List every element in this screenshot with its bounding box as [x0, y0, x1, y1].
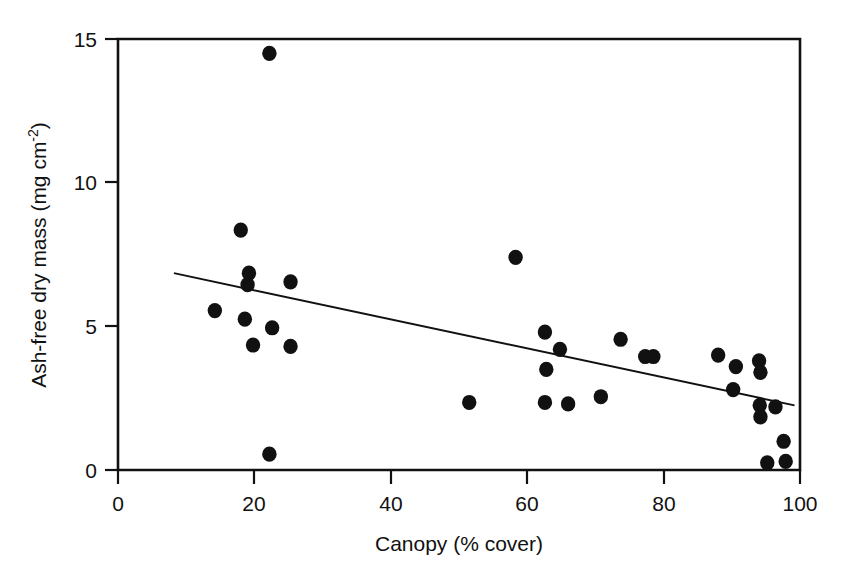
data-point: [646, 349, 660, 364]
data-point: [538, 324, 552, 339]
data-point: [776, 434, 790, 449]
data-point: [262, 447, 276, 462]
data-point: [594, 389, 608, 404]
data-point: [768, 399, 782, 414]
y-tick-label-5: 5: [85, 315, 97, 338]
y-axis-label-tail: ): [27, 122, 50, 129]
y-axis-ticks: [105, 39, 118, 470]
y-axis-label: Ash-free dry mass (mg cm-2): [25, 122, 50, 388]
svg-text:Ash-free dry mass (mg cm-2): Ash-free dry mass (mg cm-2): [25, 122, 50, 388]
scatter-plot-figure: 15 10 5 0 0 20 40 60 80 100 Canopy (% co…: [0, 0, 846, 574]
data-point: [729, 359, 743, 374]
y-axis-label-main: Ash-free dry mass (mg cm: [27, 142, 50, 388]
x-axis-label: Canopy (% cover): [375, 532, 543, 555]
y-axis-label-superscript: -2: [25, 129, 41, 142]
data-point: [538, 395, 552, 410]
data-point: [539, 362, 553, 377]
x-tick-label-20: 20: [242, 492, 265, 515]
x-tick-label-80: 80: [652, 492, 675, 515]
data-point: [561, 396, 575, 411]
data-point: [711, 347, 725, 362]
x-tick-label-0: 0: [112, 492, 124, 515]
data-point: [613, 332, 627, 347]
data-point: [753, 409, 767, 424]
data-point: [283, 339, 297, 354]
data-point: [778, 454, 792, 469]
x-tick-label-40: 40: [379, 492, 402, 515]
data-point: [246, 337, 260, 352]
x-axis-ticks: [118, 470, 800, 484]
data-point: [238, 312, 252, 327]
data-point: [726, 382, 740, 397]
data-point: [262, 46, 276, 61]
data-point: [234, 222, 248, 237]
data-point: [240, 277, 254, 292]
data-point: [208, 303, 222, 318]
data-point: [553, 342, 567, 357]
x-axis-tick-labels: 0 20 40 60 80 100: [112, 492, 817, 515]
data-point: [462, 395, 476, 410]
data-point: [753, 365, 767, 380]
y-axis-tick-labels: 15 10 5 0: [74, 28, 97, 482]
regression-line: [174, 273, 795, 405]
x-tick-label-60: 60: [515, 492, 538, 515]
y-tick-label-15: 15: [74, 28, 97, 51]
y-tick-label-0: 0: [85, 459, 97, 482]
data-point: [265, 320, 279, 335]
y-tick-label-10: 10: [74, 171, 97, 194]
data-point: [760, 455, 774, 470]
chart-canvas: 15 10 5 0 0 20 40 60 80 100 Canopy (% co…: [0, 0, 846, 574]
data-point: [283, 274, 297, 289]
x-tick-label-100: 100: [782, 492, 817, 515]
data-point: [508, 250, 522, 265]
data-points-group: [208, 46, 793, 471]
plot-frame: [118, 39, 800, 470]
